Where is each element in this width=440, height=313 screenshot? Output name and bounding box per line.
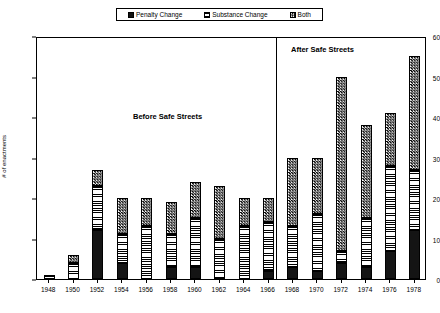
x-tick-mark [146, 280, 147, 283]
x-tick-mark [268, 280, 269, 283]
legend-item-penalty-change: Penalty Change [128, 11, 182, 19]
bar-1954 [117, 198, 128, 279]
x-tick-mark [414, 280, 415, 283]
legend-label-penalty-change: Penalty Change [136, 11, 182, 19]
bar-segment-both [239, 198, 250, 226]
x-tick-mark [389, 280, 390, 283]
y-axis-title: # of enactments [1, 135, 8, 178]
bar-segment-substance-change [141, 226, 152, 279]
bar-segment-both [190, 182, 201, 218]
x-tick-mark [243, 280, 244, 283]
bar-1952 [92, 170, 103, 279]
bar-segment-penalty-change [190, 267, 201, 279]
bar-1972 [336, 77, 347, 280]
x-tick-mark [97, 280, 98, 283]
bar-segment-substance-change [287, 226, 298, 267]
bar-1978 [409, 56, 420, 279]
bar-segment-substance-change [385, 166, 396, 251]
x-tick-mark [194, 280, 195, 283]
bar-segment-both [141, 198, 152, 226]
x-tick-mark [121, 280, 122, 283]
bar-segment-both [312, 158, 323, 215]
bar-1974 [361, 125, 372, 279]
bar-segment-penalty-change [263, 271, 274, 279]
bar-segment-penalty-change [312, 271, 323, 279]
bar-segment-substance-change [263, 222, 274, 271]
bar-segment-both [117, 198, 128, 234]
legend-swatch-solid-black-icon [128, 12, 134, 18]
bar-segment-substance-change [68, 263, 79, 279]
bar-1976 [385, 113, 396, 279]
bar-segment-both [214, 186, 225, 239]
annotation-before-safe-streets: Before Safe Streets [133, 112, 202, 121]
bar-chart: Penalty Change Substance Change Both # o… [0, 0, 440, 313]
bar-segment-both [409, 56, 420, 169]
bar-segment-penalty-change [385, 251, 396, 279]
bar-segment-both [68, 255, 79, 263]
x-tick-label: 1978 [399, 286, 429, 294]
bar-segment-substance-change [336, 251, 347, 263]
bar-1970 [312, 158, 323, 280]
bar-1958 [166, 202, 177, 279]
bar-segment-penalty-change [361, 267, 372, 279]
era-divider-line [276, 38, 277, 279]
bar-1950 [68, 255, 79, 279]
x-tick-mark [48, 280, 49, 283]
bar-segment-both [263, 198, 274, 222]
bar-segment-substance-change [117, 234, 128, 262]
bar-segment-substance-change [190, 218, 201, 267]
bar-1966 [263, 198, 274, 279]
x-tick-mark [316, 280, 317, 283]
bar-1960 [190, 182, 201, 279]
legend-label-substance-change: Substance Change [212, 11, 267, 19]
bar-segment-both [336, 77, 347, 251]
bar-1962 [214, 186, 225, 279]
bar-segment-penalty-change [409, 230, 420, 279]
legend-swatch-horizontal-lines-icon [204, 12, 210, 18]
x-tick-mark [170, 280, 171, 283]
bar-segment-both [92, 170, 103, 186]
legend-label-both: Both [298, 11, 311, 19]
bar-segment-substance-change [239, 226, 250, 279]
annotation-after-safe-streets: After Safe Streets [291, 45, 354, 54]
x-tick-mark [365, 280, 366, 283]
x-tick-mark [73, 280, 74, 283]
bar-1948 [44, 275, 55, 279]
bar-segment-both [287, 158, 298, 227]
chart-legend: Penalty Change Substance Change Both [116, 8, 323, 21]
bar-segment-substance-change [44, 275, 55, 279]
x-tick-mark [292, 280, 293, 283]
bar-segment-substance-change [361, 218, 372, 267]
bar-segment-both [166, 202, 177, 234]
bar-segment-penalty-change [117, 263, 128, 279]
bar-segment-both [385, 113, 396, 166]
bar-segment-penalty-change [336, 263, 347, 279]
bar-segment-substance-change [166, 234, 177, 266]
bar-1968 [287, 158, 298, 280]
bar-segment-penalty-change [287, 267, 298, 279]
bar-segment-both [361, 125, 372, 218]
x-tick-mark [219, 280, 220, 283]
bar-segment-penalty-change [166, 267, 177, 279]
legend-swatch-checkered-icon [290, 12, 296, 18]
bar-1956 [141, 198, 152, 279]
legend-item-both: Both [290, 11, 311, 19]
bar-segment-penalty-change [92, 230, 103, 279]
bar-segment-substance-change [92, 186, 103, 231]
bar-segment-substance-change [409, 170, 420, 231]
bar-segment-substance-change [312, 214, 323, 271]
x-tick-mark [341, 280, 342, 283]
bar-segment-substance-change [214, 239, 225, 280]
bar-1964 [239, 198, 250, 279]
plot-area [36, 37, 426, 280]
legend-item-substance-change: Substance Change [204, 11, 267, 19]
